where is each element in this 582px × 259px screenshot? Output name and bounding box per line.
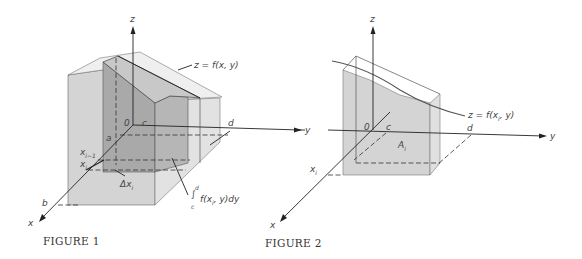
y-axis-label: y (304, 125, 311, 135)
slab-side (155, 96, 188, 172)
y-axis-label-2: y (549, 131, 556, 141)
surface-label: z = f(x, y) (193, 60, 239, 70)
limit-d: d (228, 118, 234, 128)
figure-1: z y x 0 c d a b xi−1 xi Δxi z = f(x, y) … (27, 14, 311, 247)
limit-b: b (42, 198, 48, 208)
x-i-label-2: xi (309, 164, 317, 176)
limit-a: a (106, 133, 112, 143)
diagram-canvas: z y x 0 c d a b xi−1 xi Δxi z = f(x, y) … (0, 0, 582, 259)
curve-label: z = f(xi, y) (467, 110, 514, 122)
svg-text:d: d (195, 184, 199, 191)
limit-c-2: c (386, 122, 391, 132)
figure-1-caption: FIGURE 1 (43, 235, 100, 247)
x-axis-label: x (27, 218, 34, 228)
limit-d-2: d (467, 123, 473, 133)
limit-c: c (142, 118, 147, 128)
z-axis-label-2: z (369, 14, 375, 24)
z-axis-label: z (129, 14, 135, 24)
origin-label: 0 (124, 118, 130, 128)
x-axis-label-2: x (269, 220, 276, 230)
origin-label-2: 0 (364, 122, 370, 132)
svg-text:f(xi, y)dy: f(xi, y)dy (200, 194, 240, 206)
svg-text:c: c (191, 203, 195, 210)
integral-label: ∫ d c f(xi, y)dy (191, 184, 240, 210)
figure-2-caption: FIGURE 2 (265, 237, 322, 249)
